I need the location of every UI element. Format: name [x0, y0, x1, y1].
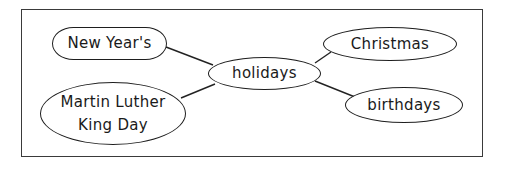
- node-label: holidays: [232, 62, 297, 85]
- edge-holidays-christmas: [315, 52, 331, 63]
- node-label: Christmas: [351, 33, 429, 56]
- node-label-line1: Martin Luther: [61, 91, 166, 114]
- node-new-years: New Year's: [52, 27, 167, 60]
- concept-map-canvas: New Year's Martin Luther King Day holida…: [0, 0, 508, 169]
- node-label-line2: King Day: [78, 114, 148, 137]
- node-label: birthdays: [367, 94, 440, 117]
- node-mlk-day: Martin Luther King Day: [40, 82, 186, 145]
- node-christmas: Christmas: [323, 27, 457, 61]
- node-holidays-center: holidays: [208, 57, 321, 90]
- edge-holidays-birthdays: [315, 81, 355, 97]
- edge-new-years-holidays: [166, 47, 213, 65]
- node-label: New Year's: [67, 32, 151, 55]
- edge-mlk-holidays: [181, 84, 215, 98]
- node-birthdays: birthdays: [345, 87, 463, 123]
